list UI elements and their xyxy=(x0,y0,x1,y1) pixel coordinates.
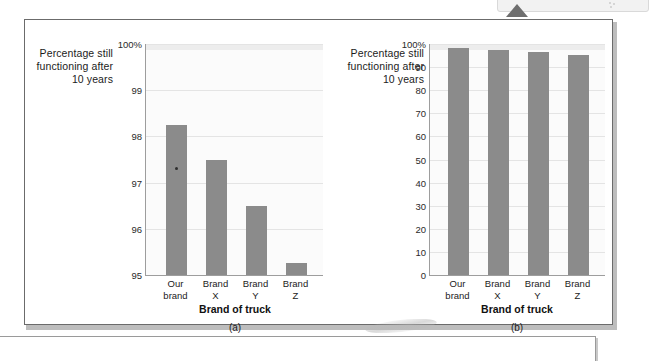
y-tick-label-b-60: 60 xyxy=(415,131,426,142)
y-tick-label-a-96: 96 xyxy=(131,223,142,234)
y-tick-label-b-70: 70 xyxy=(415,108,426,119)
y-tick-label-b-0: 0 xyxy=(421,270,426,281)
x-tick-line: Brand xyxy=(553,278,603,290)
plot-area-b: 0102030405060708090100% xyxy=(429,44,605,276)
bar-a-brand-x xyxy=(206,160,227,276)
bar-b-brand-z xyxy=(568,55,589,275)
x-tick-line: Brand xyxy=(271,278,321,290)
bar-b-brand-y xyxy=(528,52,549,275)
y-tick-label-a-98: 98 xyxy=(131,131,142,142)
y-tick-label-b-90: 90 xyxy=(415,62,426,73)
x-tick-label-a-brand-z: BrandZ xyxy=(271,278,321,302)
bar-a-brand-y xyxy=(246,206,267,275)
y-tick-label-a-100: 100% xyxy=(118,39,142,50)
figure-caption-b: (b) xyxy=(427,322,607,333)
figure-caption-a: (a) xyxy=(145,322,325,333)
gridline-a-100: 100% xyxy=(146,44,323,45)
bar-a-brand-z xyxy=(286,263,307,275)
page-lower-edge xyxy=(0,336,596,361)
y-tick-label-b-10: 10 xyxy=(415,246,426,257)
y-tick-label-a-95: 95 xyxy=(131,270,142,281)
y-tick-label-b-40: 40 xyxy=(415,177,426,188)
x-tick-line: Z xyxy=(553,290,603,302)
x-axis-label-b: Brand of truck xyxy=(427,303,607,315)
x-tick-line: Z xyxy=(271,290,321,302)
y-tick-label-b-80: 80 xyxy=(415,85,426,96)
y-axis-label-b: Percentage still functioning after 10 ye… xyxy=(342,47,424,86)
y-tick-label-b-100: 100% xyxy=(402,39,426,50)
callout-pointer-triangle-icon xyxy=(506,4,528,17)
figure-b: Percentage still functioning after 10 ye… xyxy=(314,20,614,326)
x-tick-label-b-brand-z: BrandZ xyxy=(553,278,603,302)
gridline-a-99: 99 xyxy=(146,90,323,91)
x-axis-line-b xyxy=(430,275,605,276)
figure-a: Percentage still functioning after 10 ye… xyxy=(25,20,325,326)
bar-b-brand-x xyxy=(488,50,509,275)
bar-b-our-brand xyxy=(448,48,469,275)
y-tick-label-b-50: 50 xyxy=(415,154,426,165)
x-axis-label-a: Brand of truck xyxy=(145,303,325,315)
y-tick-label-a-99: 99 xyxy=(131,85,142,96)
y-tick-label-b-20: 20 xyxy=(415,223,426,234)
gridline-b-100: 100% xyxy=(430,44,605,45)
x-axis-line-a xyxy=(146,275,323,276)
plot-area-a: 9596979899100% xyxy=(145,44,323,276)
corner-speck-artifact xyxy=(608,1,617,9)
y-tick-label-a-97: 97 xyxy=(131,177,142,188)
bar-a-our-brand xyxy=(166,125,187,275)
document-page: Percentage still functioning after 10 ye… xyxy=(24,19,613,325)
y-axis-label-a: Percentage still functioning after 10 ye… xyxy=(31,47,113,86)
y-tick-label-b-30: 30 xyxy=(415,200,426,211)
bar-speck-artifact xyxy=(175,167,178,170)
